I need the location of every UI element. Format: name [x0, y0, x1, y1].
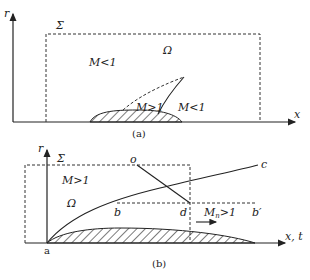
- x-axis-label-a: x: [294, 108, 301, 121]
- region-downstream-label: M<1: [177, 101, 205, 114]
- region-supersonic-label: M>1: [135, 101, 163, 114]
- region-upstream-label: M<1: [88, 56, 116, 69]
- r-axis-label-b: r: [38, 142, 44, 155]
- panel-a: r x Σ Ω M<1 M>1 M<1 (a): [4, 7, 301, 139]
- caption-a: (a): [132, 128, 146, 139]
- normal-mach-label: Mn>1: [203, 206, 236, 220]
- point-b-label: b: [114, 206, 121, 219]
- hatched-body-b: [47, 228, 255, 243]
- r-axis-label-a: r: [4, 7, 10, 20]
- sigma-label-a: Σ: [55, 19, 64, 32]
- caption-b: (b): [152, 258, 166, 269]
- omega-label-b: Ω: [66, 197, 76, 210]
- characteristic-line-od: [137, 165, 190, 203]
- region-label-b: M>1: [61, 174, 89, 187]
- point-a-label: a: [44, 245, 50, 256]
- omega-label-a: Ω: [162, 44, 172, 57]
- x-axis-label-b: x, t: [285, 230, 303, 243]
- panel-b: r x, t Σ M>1 Ω o c b d b′ a Mn>1 (b): [25, 142, 303, 269]
- diagram-canvas: r x Σ Ω M<1 M>1 M<1 (a) r x, t Σ M>1 Ω o…: [0, 0, 310, 280]
- point-b-prime-label: b′: [252, 206, 262, 219]
- point-o-label: o: [130, 153, 137, 166]
- sigma-label-b: Σ: [56, 152, 65, 165]
- point-c-label: c: [261, 158, 267, 171]
- point-d-label: d: [180, 206, 187, 219]
